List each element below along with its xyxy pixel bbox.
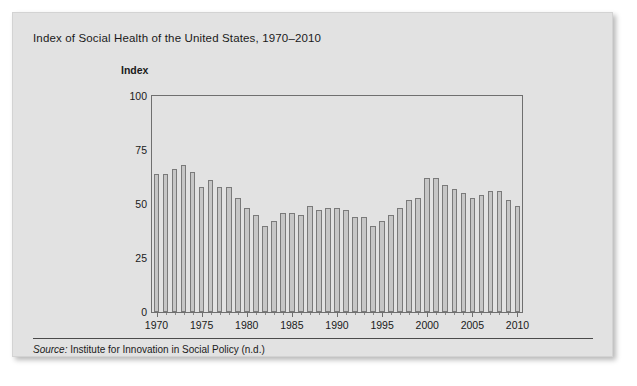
x-minor-tick	[346, 313, 347, 315]
x-minor-tick	[310, 313, 311, 315]
x-minor-tick	[184, 313, 185, 315]
source-line: Source: Institute for Innovation in Soci…	[33, 344, 265, 355]
x-minor-tick	[418, 313, 419, 315]
x-tick-label: 2000	[416, 319, 439, 331]
x-minor-tick	[211, 313, 212, 315]
x-major-tick	[157, 313, 158, 317]
bar	[424, 178, 430, 312]
bar	[433, 178, 439, 312]
chart-title: Index of Social Health of the United Sta…	[33, 32, 321, 44]
x-minor-tick	[166, 313, 167, 315]
x-major-tick	[202, 313, 203, 317]
y-tick-label: 50	[113, 198, 147, 210]
x-minor-tick	[436, 313, 437, 315]
y-tick-label: 25	[113, 252, 147, 264]
figure-card: Index of Social Health of the United Sta…	[12, 12, 613, 357]
bar	[325, 208, 331, 312]
x-major-tick	[427, 313, 428, 317]
bar	[334, 208, 340, 312]
bar	[388, 215, 394, 312]
bar	[181, 165, 187, 312]
source-divider	[33, 338, 593, 339]
bar	[289, 213, 295, 312]
bar	[163, 174, 169, 312]
y-tick-label: 0	[113, 306, 147, 318]
x-minor-tick	[445, 313, 446, 315]
x-tick-label: 1990	[325, 319, 348, 331]
bar	[226, 187, 232, 312]
bar	[190, 172, 196, 312]
x-minor-tick	[400, 313, 401, 315]
x-major-tick	[472, 313, 473, 317]
x-tick-label: 1995	[370, 319, 393, 331]
x-minor-tick	[409, 313, 410, 315]
x-major-tick	[292, 313, 293, 317]
bar	[316, 210, 322, 312]
x-minor-tick	[373, 313, 374, 315]
x-tick-label: 2010	[506, 319, 529, 331]
bar	[271, 221, 277, 312]
bar	[515, 206, 521, 312]
x-tick-label: 1975	[190, 319, 213, 331]
source-text: Institute for Innovation in Social Polic…	[70, 344, 265, 355]
bar	[262, 226, 268, 312]
x-minor-tick	[193, 313, 194, 315]
y-tick-label: 100	[113, 90, 147, 102]
bar	[244, 208, 250, 312]
bar	[379, 221, 385, 312]
bar	[253, 215, 259, 312]
x-minor-tick	[490, 313, 491, 315]
bar	[172, 169, 178, 312]
bar	[280, 213, 286, 312]
x-minor-tick	[364, 313, 365, 315]
bar	[479, 195, 485, 312]
source-label: Source:	[33, 344, 67, 355]
bar	[397, 208, 403, 312]
x-tick-label: 1985	[280, 319, 303, 331]
x-minor-tick	[238, 313, 239, 315]
bar	[352, 217, 358, 312]
x-minor-tick	[391, 313, 392, 315]
x-minor-tick	[283, 313, 284, 315]
bar	[361, 217, 367, 312]
x-major-tick	[517, 313, 518, 317]
bar	[217, 187, 223, 312]
x-minor-tick	[499, 313, 500, 315]
y-tick-label: 75	[113, 144, 147, 156]
bar	[452, 189, 458, 312]
x-minor-tick	[220, 313, 221, 315]
bar	[415, 198, 421, 312]
x-major-tick	[247, 313, 248, 317]
x-minor-tick	[454, 313, 455, 315]
x-tick-label: 1980	[235, 319, 258, 331]
x-minor-tick	[355, 313, 356, 315]
bar-series	[152, 96, 522, 312]
bar	[488, 191, 494, 312]
y-axis-tick-labels: 0255075100	[109, 95, 147, 313]
bar	[307, 206, 313, 312]
x-minor-tick	[175, 313, 176, 315]
bar	[235, 198, 241, 312]
x-axis-tick-labels: 197019751980198519901995200020052010	[152, 319, 522, 333]
bar	[208, 180, 214, 312]
bar	[461, 193, 467, 312]
bar	[298, 215, 304, 312]
x-major-tick	[382, 313, 383, 317]
x-tick-label: 2005	[461, 319, 484, 331]
x-minor-tick	[319, 313, 320, 315]
x-major-tick	[337, 313, 338, 317]
x-minor-tick	[229, 313, 230, 315]
bar	[406, 200, 412, 312]
bar	[442, 185, 448, 312]
bar	[497, 191, 503, 312]
bar	[506, 200, 512, 312]
x-minor-tick	[508, 313, 509, 315]
x-minor-tick	[481, 313, 482, 315]
x-minor-tick	[274, 313, 275, 315]
x-tick-label: 1970	[145, 319, 168, 331]
bar	[154, 174, 160, 312]
x-minor-tick	[301, 313, 302, 315]
x-minor-tick	[256, 313, 257, 315]
x-axis-ticks	[152, 313, 522, 318]
bar	[199, 187, 205, 312]
